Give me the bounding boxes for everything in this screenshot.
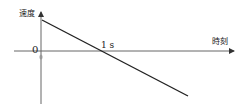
x-tick-label: 1 s xyxy=(101,40,114,50)
x-axis-label: 時刻 xyxy=(212,37,228,47)
origin-marker xyxy=(40,55,43,60)
origin-label: 0 xyxy=(32,45,38,55)
velocity-line xyxy=(42,20,188,96)
y-axis-label: 速度 xyxy=(19,9,35,19)
